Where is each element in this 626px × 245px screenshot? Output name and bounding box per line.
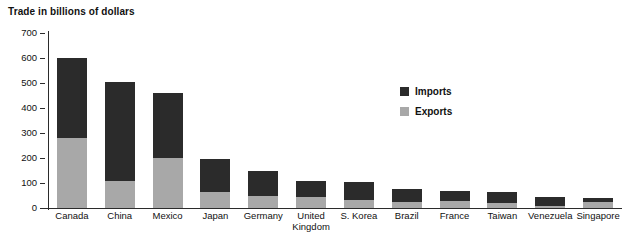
bar-segment-imports <box>535 197 565 206</box>
bar-segment-exports <box>153 158 183 208</box>
bar-segment-imports <box>57 58 87 138</box>
bar-segment-imports <box>296 181 326 197</box>
bar-stack <box>57 58 87 208</box>
bar-stack <box>344 182 374 208</box>
y-axis-tick-mark <box>40 83 45 84</box>
bar-stack <box>200 159 230 209</box>
legend-swatch <box>400 87 409 96</box>
bar-segment-exports <box>57 138 87 208</box>
bar-stack <box>153 93 183 208</box>
bar-stack <box>487 192 517 208</box>
bar-segment-imports <box>248 171 278 196</box>
trade-bar-chart: Trade in billions of dollars 01002003004… <box>0 0 626 245</box>
legend-label: Imports <box>415 86 452 97</box>
y-axis-tick-mark <box>40 208 45 209</box>
bar-segment-imports <box>200 159 230 192</box>
bar-group[interactable]: Japan <box>200 33 230 208</box>
y-axis-tick-mark <box>40 158 45 159</box>
legend-label: Exports <box>415 106 452 117</box>
bar-stack <box>248 171 278 208</box>
x-axis-line <box>44 208 622 209</box>
bar-stack <box>105 82 135 208</box>
bar-segment-exports <box>296 197 326 208</box>
bar-segment-exports <box>440 201 470 208</box>
bar-segment-exports <box>200 192 230 208</box>
bar-segment-imports <box>392 189 422 202</box>
bar-stack <box>440 191 470 208</box>
bar-segment-exports <box>344 200 374 208</box>
bar-stack <box>392 189 422 208</box>
bar-series-container: CanadaChinaMexicoJapanGermanyUnited King… <box>48 33 622 208</box>
y-axis-tick-label: 500 <box>21 77 37 88</box>
bar-stack <box>535 197 565 208</box>
bar-group[interactable]: China <box>105 33 135 208</box>
y-axis-tick-label: 300 <box>21 127 37 138</box>
y-axis-tick-mark <box>40 58 45 59</box>
bar-segment-imports <box>153 93 183 158</box>
bar-group[interactable]: Singapore <box>583 33 613 208</box>
bar-group[interactable]: Canada <box>57 33 87 208</box>
bar-group[interactable]: Germany <box>248 33 278 208</box>
legend-swatch <box>400 107 409 116</box>
x-axis-label: Singapore <box>562 210 626 221</box>
y-axis-tick-label: 600 <box>21 52 37 63</box>
y-axis-tick-mark <box>40 33 45 34</box>
bar-group[interactable]: Mexico <box>153 33 183 208</box>
y-axis-tick-mark <box>40 133 45 134</box>
bar-segment-imports <box>344 182 374 200</box>
chart-title: Trade in billions of dollars <box>8 6 135 17</box>
bar-segment-exports <box>583 202 613 209</box>
bar-segment-exports <box>105 181 135 209</box>
chart-legend: ImportsExports <box>400 86 452 126</box>
bar-segment-exports <box>392 202 422 208</box>
y-axis-tick-label: 100 <box>21 177 37 188</box>
bar-stack <box>296 181 326 208</box>
bar-segment-exports <box>248 196 278 209</box>
bar-segment-imports <box>487 192 517 203</box>
y-axis-tick-label: 400 <box>21 102 37 113</box>
bar-segment-exports <box>535 206 565 209</box>
y-axis-tick-label: 700 <box>21 27 37 38</box>
y-axis-tick-mark <box>40 108 45 109</box>
bar-group[interactable]: S. Korea <box>344 33 374 208</box>
bar-group[interactable]: Venezuela <box>535 33 565 208</box>
legend-item[interactable]: Imports <box>400 86 452 97</box>
bar-segment-imports <box>440 191 470 201</box>
bar-segment-imports <box>105 82 135 181</box>
bar-stack <box>583 198 613 208</box>
bar-segment-exports <box>487 203 517 209</box>
y-axis-tick-mark <box>40 183 45 184</box>
legend-item[interactable]: Exports <box>400 106 452 117</box>
y-axis-tick-label: 200 <box>21 152 37 163</box>
bar-group[interactable]: Taiwan <box>487 33 517 208</box>
bar-group[interactable]: United Kingdom <box>296 33 326 208</box>
